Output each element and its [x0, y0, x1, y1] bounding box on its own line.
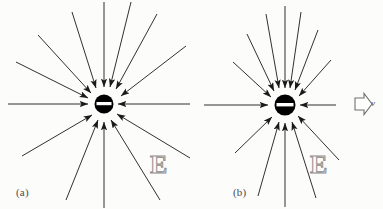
- field-line: [16, 62, 88, 98]
- panel-a-charge: [95, 95, 114, 114]
- field-line: [247, 34, 274, 91]
- field-line: [121, 46, 186, 96]
- minus-sign-bar: [97, 102, 112, 105]
- field-line: [295, 30, 318, 90]
- minus-sign-bar: [277, 103, 294, 106]
- field-line: [110, 2, 131, 87]
- field-label-b: E: [310, 152, 327, 178]
- panel-caption-b: (b): [233, 186, 246, 198]
- field-line: [290, 12, 301, 88]
- field-line: [299, 60, 331, 96]
- velocity-label: v: [371, 98, 375, 108]
- field-line: [258, 122, 279, 196]
- figure-container: E E v (a) (b): [0, 0, 383, 209]
- field-line: [66, 120, 98, 200]
- velocity-arrow-shape: [355, 94, 372, 115]
- field-line: [38, 35, 91, 93]
- field-line: [266, 14, 279, 88]
- field-line: [22, 115, 92, 156]
- field-line: [233, 62, 271, 97]
- field-line: [116, 14, 157, 89]
- field-label-a: E: [150, 152, 167, 178]
- velocity-arrow: [355, 94, 372, 115]
- field-line: [235, 117, 272, 153]
- panel-caption-a: (a): [16, 186, 29, 198]
- panel-b-charge: [275, 95, 296, 116]
